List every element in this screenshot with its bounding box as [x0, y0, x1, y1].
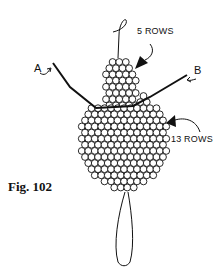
- label-5-rows: 5 ROWS: [137, 26, 174, 36]
- label-13-rows: 13 ROWS: [171, 134, 213, 144]
- label-b: B: [194, 64, 202, 76]
- arrow-5rows-icon: [145, 44, 152, 60]
- figure-caption: Fig. 102: [8, 179, 52, 195]
- top-thread: [113, 20, 126, 58]
- bottom-loop: [116, 192, 133, 266]
- label-a: A: [34, 62, 42, 74]
- arrow-b-icon: [187, 77, 196, 82]
- arrow-13rows-icon: [175, 119, 200, 132]
- arrowhead-5rows-icon: [135, 56, 148, 69]
